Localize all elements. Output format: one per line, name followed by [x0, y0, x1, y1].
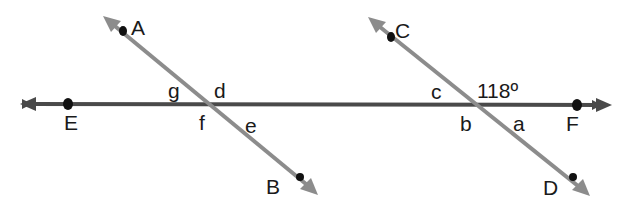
angle-label-118: 118º — [477, 79, 518, 102]
point-e — [63, 98, 73, 110]
angle-diagram: A B C D E F g d f e c 118º b a — [0, 0, 623, 216]
label-b: B — [266, 175, 280, 198]
arrow-right-icon — [596, 98, 612, 112]
label-f: F — [566, 112, 579, 135]
arrow-left-icon — [20, 97, 36, 111]
point-a — [119, 26, 127, 36]
angle-label-g: g — [168, 79, 180, 102]
angle-label-a: a — [513, 112, 525, 135]
point-d — [569, 173, 577, 181]
angle-label-c: c — [431, 80, 442, 103]
point-c — [387, 32, 395, 42]
point-b — [296, 173, 304, 181]
angle-label-d: d — [214, 79, 226, 102]
point-f — [572, 99, 582, 111]
label-a: A — [131, 16, 145, 39]
line-ef — [30, 104, 600, 105]
label-d: D — [543, 176, 558, 199]
label-c: C — [395, 19, 410, 42]
angle-label-b: b — [460, 112, 472, 135]
label-e: E — [64, 111, 78, 134]
angle-label-f: f — [199, 111, 205, 134]
angle-label-e: e — [245, 114, 257, 137]
